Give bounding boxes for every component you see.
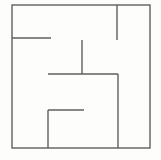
maze-background [0, 0, 161, 160]
maze-figure [0, 0, 161, 160]
maze-canvas [0, 0, 161, 160]
